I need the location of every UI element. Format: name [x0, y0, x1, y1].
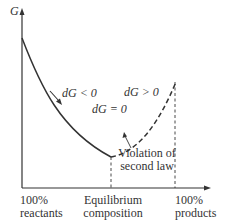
y-axis-arrow-icon [20, 8, 25, 15]
dg-positive-label: dG > 0 [124, 86, 159, 99]
dg-zero-label: dG = 0 [92, 103, 127, 116]
x-tick-products: 100% products [175, 194, 216, 220]
violation-label-line2: second law [116, 160, 178, 173]
x-tick-reactants-line2: reactants [20, 207, 63, 220]
x-tick-equilibrium-line2: composition [82, 207, 144, 220]
violation-label: Violation of second law [116, 147, 178, 173]
x-tick-products-line2: products [175, 207, 216, 220]
x-axis-arrow-icon [204, 186, 211, 191]
violation-pointer-arrowhead-icon [123, 132, 128, 138]
dg-negative-label: dG < 0 [62, 87, 97, 100]
x-tick-reactants: 100% reactants [20, 194, 63, 220]
y-axis-label: G [10, 5, 19, 18]
x-tick-equilibrium: Equilibrium composition [82, 194, 144, 220]
